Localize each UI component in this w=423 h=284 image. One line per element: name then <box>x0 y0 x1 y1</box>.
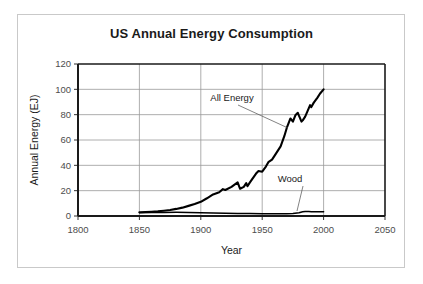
annotation-leader-line <box>238 105 288 128</box>
y-tick-label: 80 <box>60 109 71 120</box>
x-tick-label: 2050 <box>374 224 395 235</box>
series-lines <box>139 89 323 214</box>
y-axis-title: Annual Energy (EJ) <box>28 94 40 185</box>
x-tick-label: 1900 <box>190 224 211 235</box>
y-tick-label: 40 <box>60 160 71 171</box>
x-tick-label: 2000 <box>313 224 334 235</box>
series-annotation-label: Wood <box>278 173 303 184</box>
gridlines <box>78 64 385 216</box>
y-tick-label: 0 <box>66 210 71 221</box>
chart-figure: US Annual Energy Consumption All EnergyW… <box>0 0 423 284</box>
y-tick-label: 20 <box>60 185 71 196</box>
annotation-leader-line <box>297 186 303 211</box>
x-tick-label: 1850 <box>129 224 150 235</box>
series-line-wood <box>139 211 323 213</box>
x-tick-label: 1950 <box>252 224 273 235</box>
series-annotation-label: All Energy <box>210 92 254 103</box>
x-axis-title: Year <box>221 244 243 256</box>
y-tick-label: 60 <box>60 134 71 145</box>
axis-ticks <box>74 64 385 220</box>
series-line-all-energy <box>139 89 323 212</box>
y-tick-label: 100 <box>55 84 71 95</box>
axis-tick-labels: 020406080100120180018501900195020002050 <box>55 58 395 235</box>
plot-area: All EnergyWood 0204060801001201800185019… <box>0 0 423 284</box>
series-annotations: All EnergyWood <box>210 92 303 211</box>
y-tick-label: 120 <box>55 58 71 69</box>
x-tick-label: 1800 <box>67 224 88 235</box>
